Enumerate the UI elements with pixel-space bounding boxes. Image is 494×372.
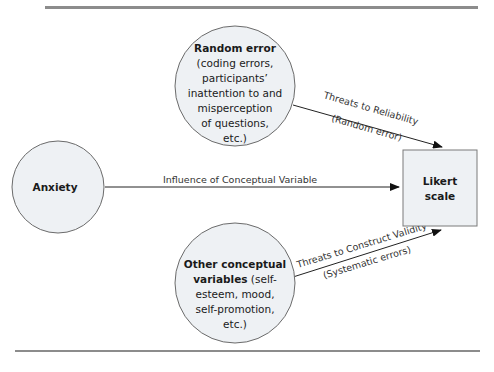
node-line: (coding errors, [197,57,274,69]
node-line: inattention to and [188,87,282,99]
node-likert-scale: Likert scale [403,150,477,226]
node-line: misperception [198,102,273,114]
node-line: variables (self- [193,273,277,285]
diagram-canvas: Threats to Reliability (Random error) In… [0,0,494,372]
node-line: esteem, mood, [196,288,275,300]
node-other-variables: Other conceptual variables (self- esteem… [175,223,295,343]
bottom-rule [15,350,480,352]
node-anxiety: Anxiety [12,141,104,233]
node-title-likert-line2: scale [425,190,455,202]
node-title-other-variables: Other conceptual [184,258,286,270]
node-line: of questions, [201,117,269,129]
node-line: etc.) [223,318,247,330]
edge-label-influence: Influence of Conceptual Variable [163,174,317,185]
node-line: etc.) [223,132,247,144]
node-line: participants’ [202,72,268,84]
top-rule [45,6,478,9]
node-line: self-promotion, [195,303,274,315]
node-random-error: Random error (coding errors, participant… [175,26,295,146]
node-title-random-error: Random error [194,42,277,54]
node-title-likert: Likert [423,175,457,187]
node-title-anxiety: Anxiety [33,181,78,193]
